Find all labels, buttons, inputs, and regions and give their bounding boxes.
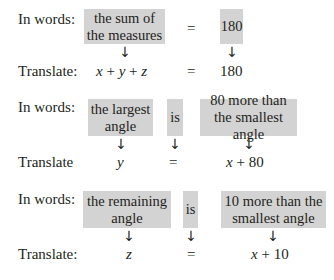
translate-label: Translate: [18, 245, 77, 263]
plus-sign: + [106, 63, 114, 79]
var-z: z [141, 63, 147, 79]
var-x: x [226, 154, 233, 170]
equals-sign: = [187, 62, 195, 80]
down-arrow-icon: ↓ [243, 137, 255, 151]
equals-sign: = [169, 153, 177, 171]
translate-label: Translate [18, 153, 73, 171]
var-x: x [96, 63, 103, 79]
var-x: x [251, 246, 258, 262]
number: 10 [274, 246, 289, 262]
down-arrow-icon: ↓ [115, 137, 127, 151]
equals-sign: = [187, 245, 195, 263]
down-arrow-icon: ↓ [267, 229, 279, 243]
down-arrow-icon: ↓ [226, 45, 238, 59]
plus-sign: + [261, 246, 269, 262]
var-y: y [119, 63, 126, 79]
var-z: z [126, 245, 132, 263]
words-box-180: 180 [220, 9, 243, 44]
equation-right: x + 80 [226, 153, 264, 171]
down-arrow-icon: ↓ [185, 229, 197, 243]
var-y: y [117, 153, 124, 171]
words-box-remaining-angle: the remaining angle [83, 191, 171, 228]
translate-label: Translate: [18, 62, 77, 80]
equation-right: 180 [220, 62, 243, 80]
number: 80 [249, 154, 264, 170]
in-words-label: In words: [18, 10, 75, 28]
words-box-10-more: 10 more than the smallest angle [221, 191, 326, 228]
words-box-is: is [183, 191, 198, 228]
in-words-label: In words: [18, 98, 75, 116]
plus-sign: + [236, 154, 244, 170]
words-box-80-more: 80 more than the smallest angle [200, 99, 297, 136]
words-box-largest-angle: the largest angle [88, 99, 153, 136]
equals-sign: = [187, 19, 195, 37]
plus-sign: + [129, 63, 137, 79]
words-box-is: is [167, 99, 183, 136]
equation-left: x + y + z [96, 62, 147, 80]
down-arrow-icon: ↓ [119, 45, 131, 59]
down-arrow-icon: ↓ [169, 137, 181, 151]
in-words-label: In words: [18, 190, 75, 208]
equation-right: x + 10 [251, 245, 289, 263]
words-box-sum-of-measures: the sum of the measures [84, 9, 165, 44]
down-arrow-icon: ↓ [123, 229, 135, 243]
